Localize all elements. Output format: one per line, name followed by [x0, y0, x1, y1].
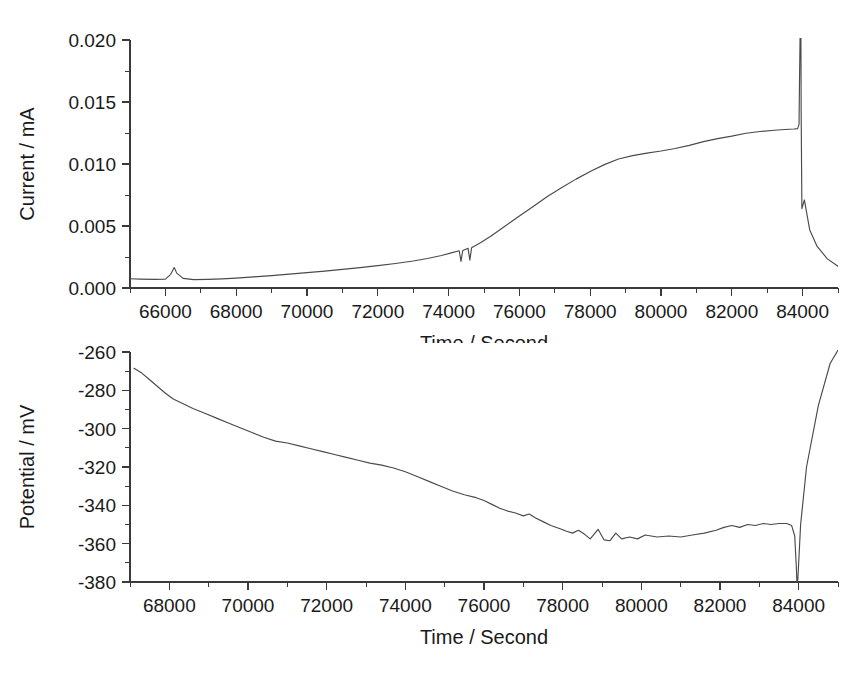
x-tick-label: 78000 — [536, 595, 589, 616]
x-tick-label: 76000 — [493, 301, 546, 322]
y-tick-label: 0.010 — [68, 154, 116, 175]
chart-panel-current: 0.0000.0050.0100.0150.020660006800070000… — [0, 0, 868, 343]
y-tick-label: -320 — [78, 457, 116, 478]
y-tick-label: -280 — [78, 380, 116, 401]
y-tick-label: -380 — [78, 572, 116, 593]
y-tick-label: -340 — [78, 495, 116, 516]
x-tick-label: 78000 — [564, 301, 617, 322]
x-tick-label: 68000 — [143, 595, 196, 616]
y-tick-label: 0.015 — [68, 92, 116, 113]
x-tick-label: 84000 — [772, 595, 825, 616]
axis-frame — [130, 40, 838, 288]
y-axis-title: Current / mA — [16, 107, 38, 221]
y-tick-label: -300 — [78, 419, 116, 440]
y-axis-title: Potential / mV — [16, 404, 38, 529]
y-tick-label: 0.000 — [68, 278, 116, 299]
x-tick-label: 76000 — [458, 595, 511, 616]
x-tick-label: 80000 — [635, 301, 688, 322]
x-tick-label: 68000 — [210, 301, 263, 322]
x-tick-label: 74000 — [422, 301, 475, 322]
y-axis-ticks: -380-360-340-320-300-280-260 — [78, 343, 130, 593]
x-tick-label: 82000 — [705, 301, 758, 322]
x-tick-label: 70000 — [281, 301, 334, 322]
data-curve-potential — [134, 350, 838, 587]
x-tick-label: 80000 — [615, 595, 668, 616]
axis-spines — [130, 40, 838, 288]
axis-spines — [130, 352, 838, 582]
x-tick-label: 74000 — [379, 595, 432, 616]
data-curve-group — [130, 15, 838, 279]
data-curve-current — [130, 15, 838, 279]
x-tick-label: 72000 — [300, 595, 353, 616]
x-axis-ticks: 6800070000720007400076000780008000082000… — [130, 582, 838, 616]
chart-panel-potential: -380-360-340-320-300-280-260680007000072… — [0, 343, 868, 686]
x-tick-label: 72000 — [351, 301, 404, 322]
x-axis-title: Time / Second — [420, 332, 548, 343]
x-tick-label: 84000 — [776, 301, 829, 322]
y-tick-label: -360 — [78, 534, 116, 555]
x-axis-ticks: 6600068000700007200074000760007800080000… — [130, 288, 838, 322]
y-tick-label: 0.005 — [68, 216, 116, 237]
x-axis-title: Time / Second — [420, 626, 548, 648]
axis-frame — [130, 352, 838, 582]
data-curve-group — [134, 350, 838, 587]
x-tick-label: 82000 — [694, 595, 747, 616]
potential-chart-svg: -380-360-340-320-300-280-260680007000072… — [0, 343, 868, 686]
x-tick-label: 70000 — [222, 595, 275, 616]
current-chart-svg: 0.0000.0050.0100.0150.020660006800070000… — [0, 0, 868, 343]
y-tick-label: 0.020 — [68, 30, 116, 51]
y-axis-ticks: 0.0000.0050.0100.0150.020 — [68, 30, 130, 299]
y-tick-label: -260 — [78, 343, 116, 363]
x-tick-label: 66000 — [139, 301, 192, 322]
figure-container: 0.0000.0050.0100.0150.020660006800070000… — [0, 0, 868, 686]
